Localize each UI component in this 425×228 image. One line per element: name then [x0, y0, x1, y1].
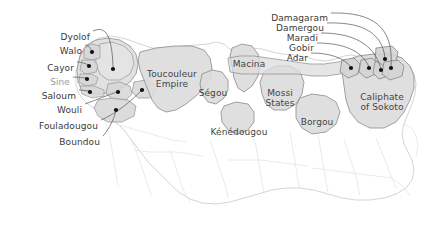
- marker-walo[interactable]: [90, 50, 94, 54]
- label-macina-line1: Macina: [233, 60, 266, 69]
- label-segou[interactable]: Ségou: [199, 89, 228, 98]
- marker-dyolof[interactable]: [111, 67, 115, 71]
- label-macina[interactable]: Macina: [233, 60, 266, 69]
- marker-saloum[interactable]: [88, 90, 92, 94]
- label-caliphate-of-sokoto-line2: of Sokoto: [360, 103, 404, 113]
- label-kenedougou[interactable]: Kénédougou: [210, 128, 267, 137]
- label-dyolof[interactable]: Dyolof: [60, 33, 90, 42]
- label-borgou[interactable]: Borgou: [301, 118, 334, 127]
- marker-fouladougou[interactable]: [140, 88, 144, 92]
- label-segou-line1: Ségou: [199, 89, 228, 98]
- label-toucouleur-empire-line2: Empire: [147, 80, 197, 90]
- marker-adar[interactable]: [349, 66, 353, 70]
- label-walo[interactable]: Walo: [60, 47, 82, 56]
- label-cayor[interactable]: Cayor: [47, 64, 74, 73]
- marker-cayor[interactable]: [87, 64, 91, 68]
- label-boundou[interactable]: Boundou: [59, 138, 100, 147]
- marker-wouli[interactable]: [116, 90, 120, 94]
- label-adar[interactable]: Adar: [287, 54, 308, 63]
- label-wouli[interactable]: Wouli: [57, 106, 82, 115]
- label-borgou-line1: Borgou: [301, 118, 334, 127]
- label-fouladougou[interactable]: Fouladougou: [39, 122, 98, 131]
- label-mossi-states-line2: States: [265, 99, 294, 109]
- label-mossi-states[interactable]: MossiStates: [265, 89, 294, 109]
- marker-maradi[interactable]: [379, 68, 383, 72]
- label-saloum[interactable]: Saloum: [42, 92, 76, 101]
- map-container: DyolofWaloCayorSineSaloumWouliFouladougo…: [0, 0, 425, 228]
- border-1: [100, 112, 118, 186]
- label-sine[interactable]: Sine: [50, 78, 70, 87]
- marker-damagaram[interactable]: [389, 66, 393, 70]
- marker-damergou[interactable]: [383, 57, 387, 61]
- marker-boundou[interactable]: [114, 108, 118, 112]
- label-kenedougou-line1: Kénédougou: [210, 128, 267, 137]
- marker-gobir[interactable]: [367, 66, 371, 70]
- label-caliphate-of-sokoto[interactable]: Caliphateof Sokoto: [360, 93, 404, 113]
- label-toucouleur-empire[interactable]: ToucouleurEmpire: [147, 70, 197, 90]
- marker-sine[interactable]: [85, 77, 89, 81]
